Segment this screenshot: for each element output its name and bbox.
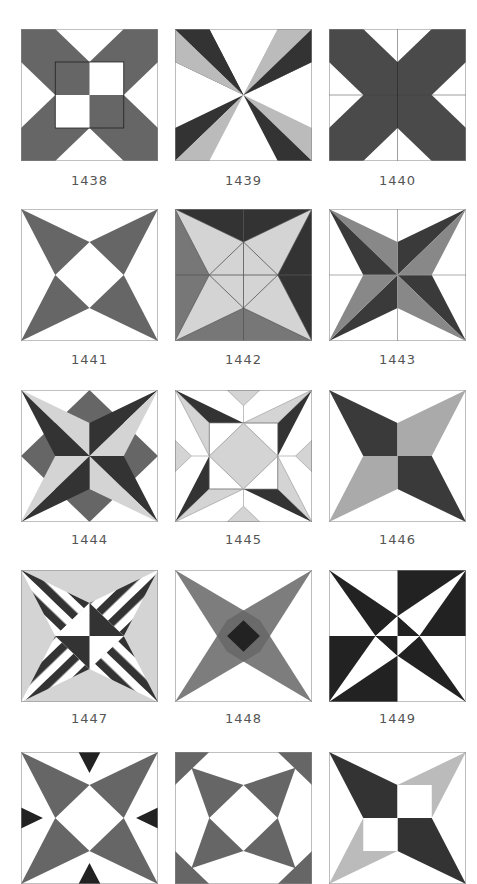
quilt-block-1440 <box>329 29 466 161</box>
block-label: 1447 <box>21 711 158 726</box>
block-label: 1446 <box>329 532 466 547</box>
quilt-block-1439 <box>175 29 312 161</box>
block-label: 1442 <box>175 352 312 367</box>
quilt-block-1452 <box>329 752 466 884</box>
block-label: 1441 <box>21 352 158 367</box>
block-label: 1438 <box>21 173 158 188</box>
quilt-block-1450 <box>21 752 158 884</box>
quilt-block-1448 <box>175 570 312 702</box>
quilt-block-1451 <box>175 752 312 884</box>
block-label: 1439 <box>175 173 312 188</box>
block-label: 1448 <box>175 711 312 726</box>
quilt-block-1441 <box>21 209 158 341</box>
quilt-block-1447 <box>21 570 158 702</box>
block-label: 1445 <box>175 532 312 547</box>
block-label: 1440 <box>329 173 466 188</box>
quilt-block-1443 <box>329 209 466 341</box>
quilt-block-1449 <box>329 570 466 702</box>
block-label: 1449 <box>329 711 466 726</box>
quilt-block-1438 <box>21 29 158 161</box>
block-label: 1443 <box>329 352 466 367</box>
quilt-block-1445 <box>175 390 312 522</box>
block-label: 1444 <box>21 532 158 547</box>
quilt-block-1442 <box>175 209 312 341</box>
quilt-block-1446 <box>329 390 466 522</box>
quilt-block-1444 <box>21 390 158 522</box>
